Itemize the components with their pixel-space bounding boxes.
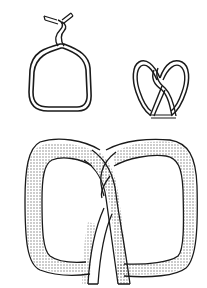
step-2-small-pretzel-drawing xyxy=(133,61,188,118)
pretzel-illustration xyxy=(0,0,207,288)
step-1-loop-drawing xyxy=(29,13,91,111)
step-3-finished-pretzel-drawing xyxy=(25,139,197,284)
